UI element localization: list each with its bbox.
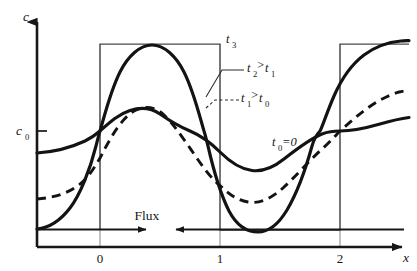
figure-root: Flux c x c 0 0 1 2 t 3 bbox=[0, 0, 417, 271]
y-axis-label: c bbox=[23, 9, 29, 24]
annotation-t1-gt-t0: t 1 > t 0 bbox=[206, 88, 269, 109]
annotation-t2-base: t bbox=[247, 61, 251, 75]
annotation-t0-base: t bbox=[272, 135, 276, 149]
annotation-t1-rel-sub: 0 bbox=[265, 99, 269, 109]
annotation-t1-relation: > bbox=[251, 88, 258, 102]
annotation-t2-rel-sub: 1 bbox=[271, 69, 275, 79]
curve-t1 bbox=[37, 91, 409, 203]
x-tick-label-0: 0 bbox=[97, 251, 104, 266]
y-reference-sub: 0 bbox=[25, 132, 29, 142]
y-reference-label-group: c 0 bbox=[16, 123, 29, 142]
x-tick-label-2: 2 bbox=[337, 251, 344, 266]
annotation-t2-relation: > bbox=[257, 58, 264, 72]
flux-label: Flux bbox=[135, 208, 160, 223]
concentration-profile-figure: Flux c x c 0 0 1 2 t 3 bbox=[0, 0, 417, 271]
annotation-t3-sub: 3 bbox=[232, 40, 236, 50]
annotation-t2-rel-base: t bbox=[265, 61, 269, 75]
annotation-t1-base: t bbox=[241, 91, 245, 105]
annotation-t2-leader bbox=[206, 70, 244, 97]
x-axis-label: x bbox=[402, 250, 409, 265]
annotation-t3: t 3 bbox=[226, 32, 236, 50]
annotation-t0-relation: =0 bbox=[282, 135, 297, 149]
x-tick-labels: 0 1 2 bbox=[97, 251, 344, 266]
y-reference-label: c bbox=[16, 123, 22, 138]
annotation-t1-leader bbox=[206, 100, 239, 108]
t1-curve-path bbox=[37, 91, 409, 203]
annotation-t3-base: t bbox=[226, 32, 230, 46]
x-tick-label-1: 1 bbox=[217, 251, 224, 266]
annotation-t1-rel-base: t bbox=[259, 91, 263, 105]
